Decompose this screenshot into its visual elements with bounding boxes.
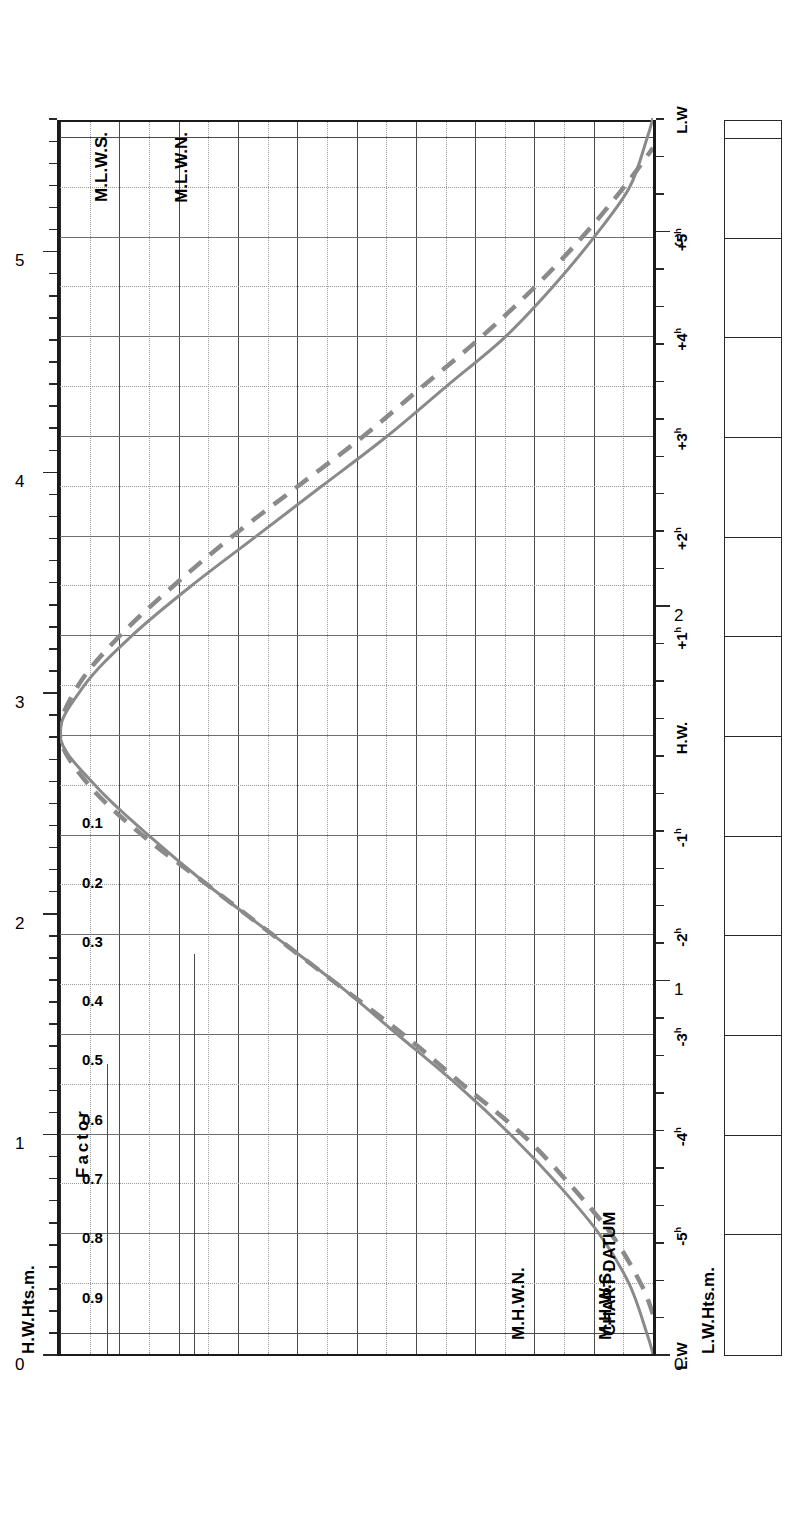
springs-curve: [60, 118, 653, 1354]
height-axis-tick: [43, 1354, 57, 1356]
height-axis-tick: [43, 251, 57, 253]
time-axis-label: +3h: [673, 428, 690, 451]
height-axis-tick: [49, 560, 57, 562]
height-axis-tick-label: 4: [15, 473, 24, 490]
height-axis-tick: [43, 692, 57, 694]
height-axis-tick: [49, 185, 57, 187]
hw-axis-title: H.W.Hts.m.: [20, 1265, 37, 1354]
level-label-mlws: M.L.W.S.: [93, 132, 110, 202]
height-axis-tick: [49, 1288, 57, 1290]
time-entry-cell[interactable]: [725, 238, 781, 339]
height-axis-tick-label: 0: [15, 1356, 24, 1373]
factor-tick-label: 0.3: [82, 933, 103, 950]
time-entry-table[interactable]: [724, 120, 782, 1356]
height-axis-tick: [49, 1244, 57, 1246]
height-axis-tick: [49, 427, 57, 429]
height-axis-tick: [49, 317, 57, 319]
time-entry-cell[interactable]: [725, 138, 781, 239]
level-label-mhws: M.H.W.S.: [597, 1268, 614, 1340]
time-axis-label: H.W.: [673, 722, 690, 755]
height-axis-tick: [49, 1178, 57, 1180]
height-axis-tick: [49, 670, 57, 672]
height-axis-tick: [49, 825, 57, 827]
height-axis-tick-label: 2: [15, 915, 24, 932]
factor-tick-label: 0.6: [82, 1111, 103, 1128]
height-axis-tick: [49, 229, 57, 231]
factor-tick-label: 0.7: [82, 1170, 103, 1187]
height-axis-tick: [49, 516, 57, 518]
height-axis-tick: [49, 141, 57, 143]
time-entry-cell[interactable]: [725, 935, 781, 1036]
height-axis-tick: [49, 957, 57, 959]
height-axis-tick: [49, 1156, 57, 1158]
time-entry-cell[interactable]: [725, 736, 781, 837]
height-axis-tick-label: 5: [15, 252, 24, 269]
time-axis-label: -1h: [673, 828, 690, 847]
height-axis-tick: [49, 1112, 57, 1114]
time-entry-cell[interactable]: [725, 1035, 781, 1136]
factor-tick-label: 0.2: [82, 874, 103, 891]
height-axis-tick: [49, 1001, 57, 1003]
height-axis-tick: [49, 869, 57, 871]
height-axis-tick: [49, 1266, 57, 1268]
height-axis-tick: [49, 361, 57, 363]
height-axis-tick: [49, 736, 57, 738]
height-axis-tick: [49, 935, 57, 937]
height-axis-tick: [49, 339, 57, 341]
height-axis-tick: [49, 847, 57, 849]
neaps-curve: [60, 148, 653, 1314]
level-label-mlwn: M.L.W.N.: [173, 132, 190, 203]
height-axis-tick: [43, 472, 57, 474]
factor-tick-label: 0.8: [82, 1229, 103, 1246]
height-axis-tick: [49, 648, 57, 650]
time-axis-label: -4h: [673, 1127, 690, 1146]
height-axis-tick: [49, 1045, 57, 1047]
height-axis-tick: [49, 781, 57, 783]
factor-tick-label: 0.9: [82, 1289, 103, 1306]
height-axis-tick: [49, 714, 57, 716]
time-axis-label: -5h: [673, 1227, 690, 1246]
time-entry-cell[interactable]: [725, 1234, 781, 1335]
time-entry-cell[interactable]: [725, 437, 781, 538]
height-axis-tick: [49, 1200, 57, 1202]
height-axis-tick: [49, 295, 57, 297]
height-axis-tick: [49, 759, 57, 761]
height-axis-tick: [49, 1068, 57, 1070]
height-axis-tick: [49, 383, 57, 385]
height-axis-tick: [49, 494, 57, 496]
height-axis-tick: [49, 803, 57, 805]
tide-curves: [60, 118, 653, 1354]
height-axis-tick: [49, 626, 57, 628]
height-axis-tick: [43, 1134, 57, 1136]
height-axis-tick: [49, 273, 57, 275]
height-axis-tick: [49, 207, 57, 209]
height-axis-tick-label: 1: [15, 1135, 24, 1152]
height-axis-tick: [49, 1310, 57, 1312]
height-axis-tick: [43, 913, 57, 915]
hw-height-axis-bar: [57, 120, 60, 1356]
height-axis-tick: [49, 582, 57, 584]
height-axis-tick: [49, 1023, 57, 1025]
factor-tick-label: 0.4: [82, 992, 103, 1009]
height-axis-tick: [49, 604, 57, 606]
height-axis-tick: [49, 450, 57, 452]
time-entry-cell[interactable]: [725, 337, 781, 438]
tide-curve-plot: CHART DATUM Factor 0.90.80.70.60.50.40.3…: [60, 120, 653, 1356]
time-axis-label: +4h: [673, 328, 690, 351]
height-axis-tick: [49, 979, 57, 981]
time-entry-cell[interactable]: [725, 636, 781, 737]
time-entry-cell[interactable]: [725, 1135, 781, 1236]
time-axis-label: +1h: [673, 627, 690, 650]
time-axis-label: L.W: [673, 106, 690, 134]
factor-tick-label: 0.5: [82, 1052, 103, 1069]
height-axis-tick: [49, 1332, 57, 1334]
time-axis-label: +5h: [673, 228, 690, 251]
time-axis-label: +2h: [673, 527, 690, 550]
time-entry-cell[interactable]: [725, 537, 781, 638]
height-axis-tick: [49, 1222, 57, 1224]
height-axis-tick-label: 3: [15, 694, 24, 711]
tidal-curve-plate: MARGATE MEAN SPRING AND NEAP CURVES MEAN…: [0, 0, 786, 1526]
height-axis-tick: [49, 891, 57, 893]
height-axis-tick: [49, 538, 57, 540]
time-entry-cell[interactable]: [725, 836, 781, 937]
